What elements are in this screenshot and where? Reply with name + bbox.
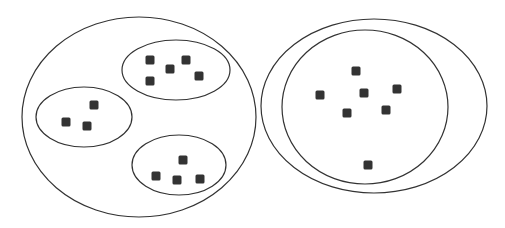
data-point-square <box>352 67 361 76</box>
data-point-square <box>62 118 71 127</box>
data-point-square <box>364 161 373 170</box>
data-point-square <box>382 106 391 115</box>
clustering-diagram <box>0 0 505 228</box>
data-point-square <box>146 56 155 65</box>
data-point-square <box>83 122 92 131</box>
data-point-square <box>146 77 155 86</box>
data-point-square <box>195 72 204 81</box>
data-point-square <box>166 65 175 74</box>
bottom-cluster-ellipse <box>132 135 226 195</box>
data-point-square <box>316 91 325 100</box>
data-point-square <box>152 172 161 181</box>
data-point-square <box>179 156 188 165</box>
data-point-square <box>182 56 191 65</box>
data-point-square <box>173 176 182 185</box>
top-right-cluster-ellipse <box>122 40 230 100</box>
data-point-square <box>360 89 369 98</box>
right-outer-ellipse <box>261 19 487 193</box>
data-point-square <box>196 175 205 184</box>
left-outer-ellipse <box>22 17 256 217</box>
data-point-square <box>343 109 352 118</box>
data-point-square <box>90 101 99 110</box>
left-cluster-ellipse <box>36 87 132 147</box>
data-point-square <box>393 85 402 94</box>
